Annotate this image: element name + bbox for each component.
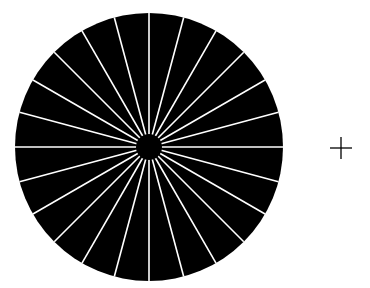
center-hub — [136, 134, 162, 160]
fixation-cross-icon — [330, 137, 352, 159]
radial-chart-diagram — [0, 0, 370, 288]
